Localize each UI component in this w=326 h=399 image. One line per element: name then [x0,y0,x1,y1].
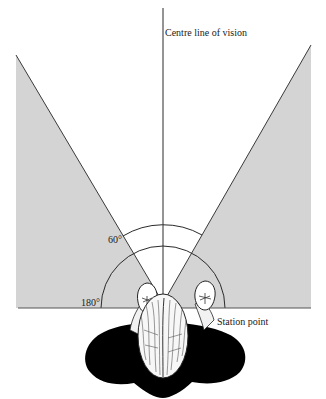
one-eighty-degree-label: 180° [81,298,100,308]
sixty-degree-label: 60° [108,235,122,245]
cone-of-vision-diagram: Centre line of vision 60° 180° Station p… [0,0,326,399]
centre-line-label: Centre line of vision [165,28,247,38]
diagram-canvas [0,0,326,399]
station-point-label: Station point [217,317,268,327]
